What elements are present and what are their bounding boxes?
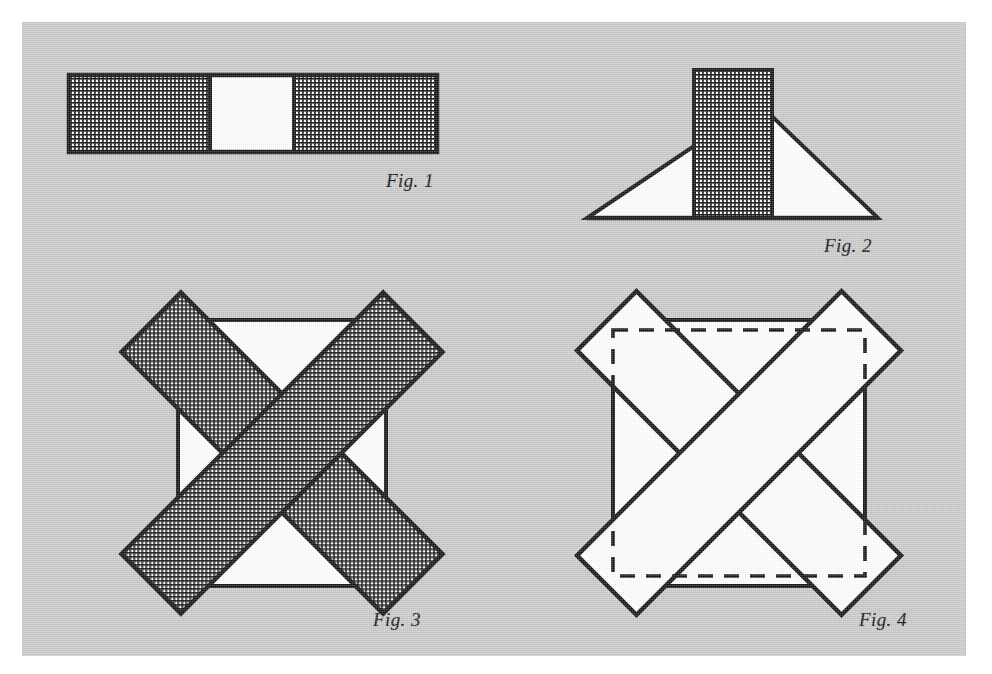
- figure-2: [587, 70, 878, 218]
- paper-panel: Fig. 1 Fig. 2 Fig. 3 Fig. 4: [22, 22, 966, 656]
- figure-1-label: Fig. 1: [386, 170, 434, 192]
- figure-1: [69, 75, 437, 152]
- figures-canvas: [22, 22, 966, 656]
- fig1-middle-cell: [210, 75, 294, 152]
- fig2-vertical-band: [694, 70, 772, 218]
- figure-3-label: Fig. 3: [373, 609, 421, 631]
- figure-4: [577, 291, 901, 615]
- fig1-right-cell: [294, 75, 437, 152]
- figure-4-label: Fig. 4: [859, 609, 907, 631]
- figure-plate: Fig. 1 Fig. 2 Fig. 3 Fig. 4: [0, 0, 992, 674]
- fig1-left-cell: [69, 75, 210, 152]
- figure-3: [121, 292, 442, 613]
- figure-2-label: Fig. 2: [824, 235, 872, 257]
